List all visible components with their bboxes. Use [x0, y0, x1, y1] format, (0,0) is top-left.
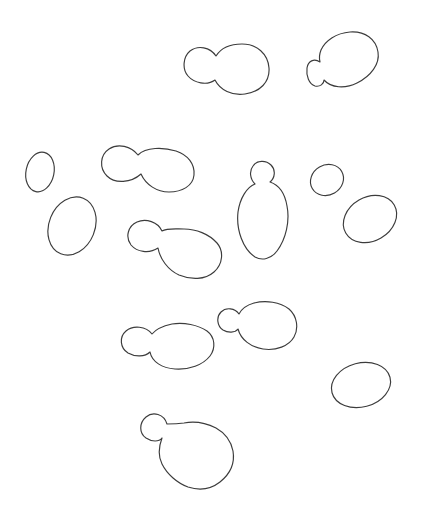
oval-yeast-cell-bottom-right [326, 356, 395, 414]
budded-yeast-cell-top-center [184, 44, 269, 94]
budded-yeast-cell-center-vertical [238, 161, 288, 259]
budded-yeast-cell-mid-diagonal [128, 220, 222, 278]
oval-yeast-cell-left-small [22, 150, 58, 195]
yeast-illustration-page [0, 0, 421, 525]
budding-yeast-cells-drawing [0, 0, 421, 525]
budded-yeast-cell-mid-left [102, 146, 195, 192]
budded-yeast-cell-lower-left [121, 323, 214, 369]
budded-yeast-cell-top-right [307, 32, 378, 87]
oval-yeast-cell-left-large [39, 190, 104, 263]
oval-yeast-cell-right-large [335, 186, 405, 252]
budded-yeast-cell-bottom [141, 414, 234, 489]
oval-yeast-cell-right-small [305, 159, 349, 202]
budded-yeast-cell-lower-right [218, 302, 297, 350]
